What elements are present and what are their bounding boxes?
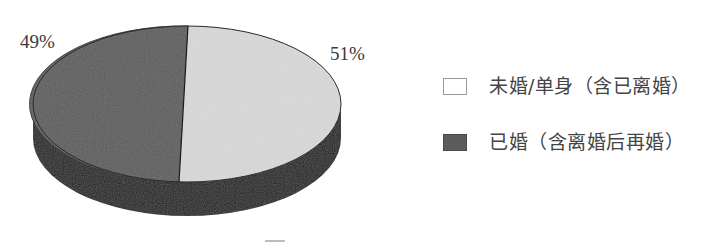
- cropped-caption-fragment: [265, 240, 285, 242]
- legend-swatch-single: [443, 78, 467, 95]
- pie-chart-3d: [0, 0, 721, 243]
- legend-label-married: 已婚（含离婚后再婚）: [489, 133, 684, 152]
- label-single-percent: 51%: [330, 44, 365, 63]
- legend-item-single: 未婚/单身（含已离婚）: [443, 77, 691, 96]
- legend-item-married: 已婚（含离婚后再婚）: [443, 133, 684, 152]
- label-married-percent: 49%: [20, 32, 55, 51]
- legend-swatch-married: [443, 134, 467, 151]
- legend-label-single: 未婚/单身（含已离婚）: [489, 77, 691, 96]
